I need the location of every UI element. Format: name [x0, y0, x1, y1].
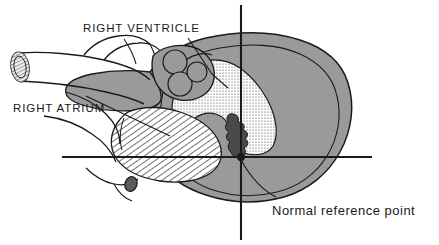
valve-cusp-3	[187, 62, 207, 82]
label-right-atrium: RIGHT ATRIUM	[13, 102, 105, 114]
coronary-vessel-stub	[123, 175, 139, 193]
label-right-ventricle: RIGHT VENTRICLE	[83, 22, 200, 34]
label-normal-reference-point: Normal reference point	[272, 203, 415, 218]
pulmonary-artery-branch-upper	[84, 35, 150, 55]
heart-anatomy-figure: RIGHT VENTRICLE RIGHT ATRIUM Normal refe…	[0, 0, 439, 245]
normal-reference-point-marker	[237, 153, 245, 161]
valve-cusp-1	[163, 50, 187, 74]
